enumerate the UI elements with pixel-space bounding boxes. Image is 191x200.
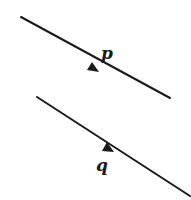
line-p-group: p	[21, 17, 170, 98]
arrowhead-q-icon	[102, 142, 114, 152]
parallel-lines-diagram: p q	[0, 0, 191, 200]
line-q	[37, 97, 190, 196]
line-p	[21, 17, 170, 98]
arrowhead-p-icon	[87, 62, 99, 72]
label-p: p	[101, 43, 113, 63]
label-q: q	[96, 155, 108, 175]
line-q-group: q	[37, 97, 190, 196]
